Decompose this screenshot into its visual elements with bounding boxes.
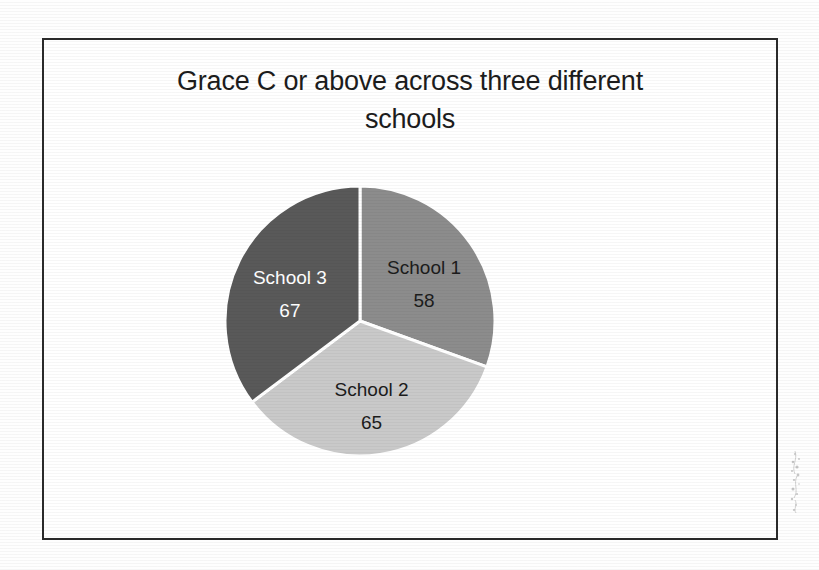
pie-value-school-3: 67 xyxy=(279,300,300,321)
pie-plot-area: School 1 58 School 2 65 School 3 67 xyxy=(44,40,776,538)
pie-label-school-3: School 3 xyxy=(253,267,327,288)
pie-label-school-1: School 1 xyxy=(387,257,461,278)
scan-smudge-artifact xyxy=(786,448,808,514)
scanned-page: Grace C or above across three different … xyxy=(0,0,819,570)
pie-value-school-1: 58 xyxy=(414,290,435,311)
chart-frame-border: Grace C or above across three different … xyxy=(42,38,778,540)
pie-label-school-2: School 2 xyxy=(335,379,409,400)
pie-chart: School 1 58 School 2 65 School 3 67 xyxy=(215,176,505,466)
pie-value-school-2: 65 xyxy=(361,412,382,433)
